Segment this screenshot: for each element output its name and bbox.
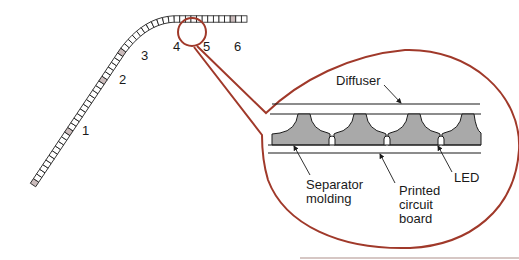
strip-tile <box>219 16 225 22</box>
separator-leader <box>294 146 310 175</box>
strip-tile <box>236 16 242 22</box>
position-label-2: 2 <box>119 72 126 87</box>
led-strip <box>30 16 247 187</box>
separator-label-line1: Separator <box>306 177 364 192</box>
pcb-label-line2: circuit <box>399 197 433 212</box>
callout-labels: Diffuser Separator molding Printed circu… <box>306 73 479 226</box>
strip-tile <box>202 16 208 22</box>
pcb-label-line1: Printed <box>399 183 440 198</box>
strip-tile <box>241 16 247 22</box>
separator-molding <box>272 114 330 145</box>
pcb-leader <box>380 154 395 183</box>
strip-tile <box>168 16 174 23</box>
diffuser-leader <box>384 85 401 103</box>
pcb-label-line3: board <box>399 211 432 226</box>
position-label-1: 1 <box>82 123 89 138</box>
separator-molding <box>442 114 481 145</box>
led <box>438 136 444 145</box>
diffuser-label: Diffuser <box>336 73 381 88</box>
separator-molding <box>334 114 386 145</box>
separator-moldings <box>272 114 481 145</box>
separator-molding <box>388 114 440 145</box>
strip-position-labels: 1 2 3 4 5 6 <box>82 39 241 138</box>
led-label: LED <box>454 170 479 185</box>
strip-tile <box>230 16 236 22</box>
led-strip-diagram: 1 2 3 4 5 6 <box>0 0 519 260</box>
led <box>384 136 390 145</box>
strip-tile <box>213 16 219 22</box>
strip-tile <box>208 16 214 22</box>
position-label-3: 3 <box>141 48 148 63</box>
cross-section <box>268 104 481 153</box>
led <box>329 136 335 145</box>
position-label-4: 4 <box>173 39 180 54</box>
position-label-6: 6 <box>234 39 241 54</box>
led-leader <box>438 146 452 172</box>
strip-tile <box>174 16 180 22</box>
separator-label-line2: molding <box>306 191 352 206</box>
strip-tile <box>225 16 231 22</box>
